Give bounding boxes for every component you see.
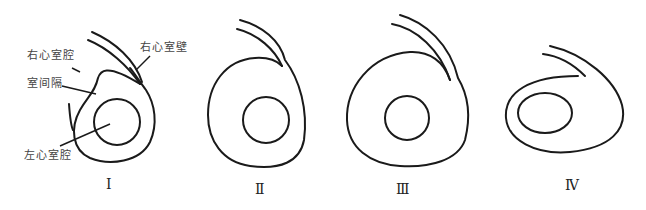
panel-2-numeral: Ⅱ — [255, 181, 265, 197]
heart-cross-section-diagram — [0, 0, 646, 210]
label-left-ventricle-cavity: 左心室腔 — [24, 146, 72, 162]
panel-3-drawing — [347, 15, 468, 166]
panel-1-numeral: Ⅰ — [106, 176, 112, 192]
label-right-ventricle-wall: 右心室壁 — [140, 38, 188, 54]
label-ventricular-septum: 室间隔 — [27, 74, 63, 90]
panel-4-drawing — [506, 46, 623, 152]
panel-2-drawing — [208, 20, 305, 167]
panel-3-numeral: Ⅲ — [396, 181, 410, 197]
label-right-ventricle-cavity: 右心室腔 — [27, 46, 75, 62]
panel-4-numeral: Ⅳ — [565, 177, 579, 193]
